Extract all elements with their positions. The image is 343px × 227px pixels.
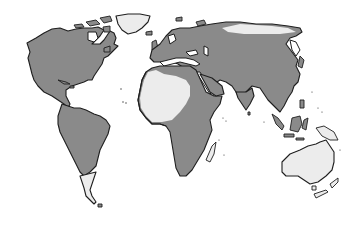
arctic-islands [103, 26, 110, 32]
island-dot [317, 107, 318, 108]
island-dot [339, 149, 340, 150]
philippines [300, 100, 304, 108]
island-dot [222, 117, 223, 118]
arctic-islands [100, 16, 112, 23]
island-dot [218, 139, 219, 140]
region-south-america [58, 104, 110, 176]
island-dot [120, 88, 121, 89]
island-dot [225, 120, 226, 121]
island-dot [125, 102, 126, 103]
region-australia [282, 140, 334, 184]
region-madagascar [206, 142, 216, 162]
arctic-islands [74, 24, 84, 28]
island-dot [321, 111, 322, 112]
falklands [98, 204, 102, 207]
island-dot [311, 91, 312, 92]
hudson-bay [88, 32, 98, 42]
region-new-zealand [314, 190, 328, 198]
tasmania [312, 186, 316, 190]
region-new-guinea [316, 126, 338, 140]
region-greenland [116, 14, 150, 34]
caribbean-island [70, 86, 74, 88]
borneo [290, 116, 302, 132]
java [284, 134, 294, 137]
region-north-america [27, 27, 118, 108]
arctic-islands [86, 20, 100, 26]
island-dot [122, 101, 123, 102]
island-dot [263, 121, 264, 122]
caspian-sea [204, 46, 208, 56]
iceland [146, 31, 152, 35]
sumatra [272, 114, 284, 130]
world-map [0, 0, 343, 227]
lesser-sunda [296, 138, 304, 140]
region-patagonia [80, 172, 96, 204]
island-dot [223, 154, 224, 155]
svalbard [176, 17, 182, 21]
sulawesi [302, 118, 308, 130]
japan [298, 56, 304, 68]
region-new-zealand [330, 178, 338, 188]
sri-lanka [248, 112, 250, 115]
